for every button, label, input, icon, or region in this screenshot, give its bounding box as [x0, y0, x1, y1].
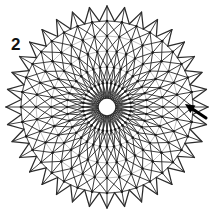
- radial-star-mesh-diagram: [0, 0, 214, 214]
- step-number-label: 2: [11, 36, 20, 53]
- center-hub-circle: [98, 98, 116, 116]
- figure-container: 2: [0, 0, 214, 214]
